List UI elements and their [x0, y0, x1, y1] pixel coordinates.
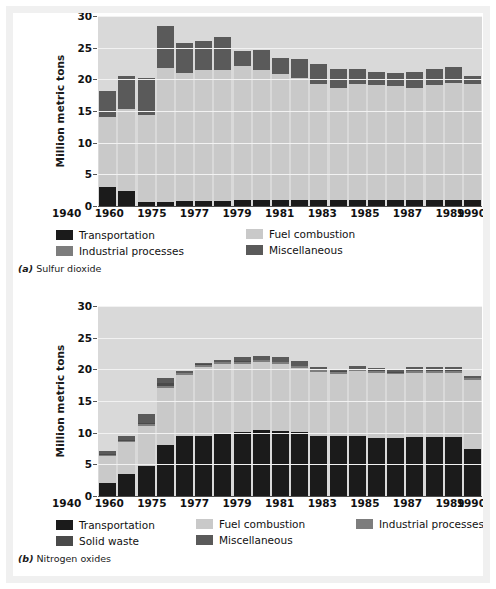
gridline: [98, 79, 482, 80]
legend-row: TransportationFuel combustionIndustrial …: [56, 518, 482, 531]
plot-area-wrapper-b: Million metric tons 051015202530: [56, 306, 482, 496]
bar-segment-fuel-combustion: [99, 117, 116, 187]
x-tick-label: 1985: [350, 497, 379, 509]
bar-segment-fuel-combustion: [406, 373, 423, 437]
bar-segment-miscellaneous: [99, 91, 116, 118]
gridline: [98, 111, 482, 112]
legend-label-transportation: Transportation: [79, 519, 155, 531]
caption-b: (b) Nitrogen oxides: [18, 553, 482, 564]
legend-item-fuel-combustion: Fuel combustion: [196, 518, 305, 530]
y-tick-label: 25: [77, 332, 92, 344]
x-tick-label: 1990: [457, 497, 486, 509]
bar-segment-fuel-combustion: [445, 373, 462, 438]
legend-item-fuel-combustion: Fuel combustion: [246, 228, 355, 240]
bar-segment-transportation: [118, 191, 135, 206]
gridline: [98, 174, 482, 175]
bar-segment-fuel-combustion: [157, 68, 174, 202]
bar-segment-transportation: [99, 483, 116, 496]
bar-segment-transportation: [387, 438, 404, 496]
legend-label-solid-waste: Solid waste: [79, 535, 139, 547]
legend-b: TransportationFuel combustionIndustrial …: [56, 518, 482, 547]
bar-segment-fuel-combustion: [330, 374, 347, 436]
bar-segment-fuel-combustion: [349, 371, 366, 436]
legend-row: Solid wasteMiscellaneous: [56, 534, 482, 547]
bar-segment-fuel-combustion: [214, 70, 231, 201]
bar-segment-transportation: [464, 449, 481, 497]
gridline: [98, 369, 482, 370]
bar-segment-miscellaneous: [349, 69, 366, 85]
y-axis-ticks-b: 051015202530: [70, 306, 96, 496]
y-tick-label: 10: [77, 137, 92, 149]
x-tick-label: 1960: [95, 207, 124, 219]
bar-segment-transportation: [310, 436, 327, 496]
y-tick-label: 15: [77, 395, 92, 407]
y-tick-label: 15: [77, 105, 92, 117]
y-axis-ticks-a: 051015202530: [70, 16, 96, 206]
gridline: [98, 143, 482, 144]
chart-nitrogen-oxides: Million metric tons 051015202530 1940196…: [14, 306, 482, 564]
legend-label-fuel-combustion: Fuel combustion: [269, 228, 355, 240]
plot-area-a: [98, 16, 482, 207]
legend-label-fuel-combustion: Fuel combustion: [219, 518, 305, 530]
y-axis-title-a: Million metric tons: [52, 16, 68, 206]
bar-segment-fuel-combustion: [214, 364, 231, 433]
bar-segment-fuel-combustion: [445, 83, 462, 201]
bar-segment-fuel-combustion: [330, 88, 347, 200]
legend-swatch-miscellaneous: [246, 245, 263, 255]
bar-segment-fuel-combustion: [272, 74, 289, 200]
bar-segment-fuel-combustion: [291, 78, 308, 200]
legend-swatch-industrial-processes: [356, 519, 373, 529]
y-tick-label: 25: [77, 42, 92, 54]
y-axis-title-label-a: Million metric tons: [54, 55, 66, 168]
x-tick-label: 1981: [265, 207, 294, 219]
bar-segment-transportation: [406, 437, 423, 496]
chart-panel-nitrogen-oxides: Million metric tons 051015202530 1940196…: [14, 306, 482, 581]
bar-segment-transportation: [118, 474, 135, 496]
legend-item-transportation: Transportation: [56, 228, 155, 241]
bar-segment-fuel-combustion: [310, 372, 327, 436]
y-axis-title-b: Million metric tons: [52, 306, 68, 496]
bar-segment-fuel-combustion: [253, 70, 270, 200]
legend-row: Industrial processesMiscellaneous: [56, 244, 482, 257]
gridline: [98, 401, 482, 402]
y-tick-label: 5: [85, 168, 92, 180]
x-tick-label: 1960: [95, 497, 124, 509]
x-tick-label: 1990: [457, 207, 486, 219]
x-tick-label: 1979: [222, 497, 251, 509]
chart-panel-sulfur-dioxide: Million metric tons 051015202530 1940196…: [14, 16, 482, 306]
y-axis-title-label-b: Million metric tons: [54, 345, 66, 458]
legend-swatch-fuel-combustion: [246, 229, 263, 239]
bar-segment-fuel-combustion: [406, 88, 423, 201]
plot-area-wrapper-a: Million metric tons 051015202530: [56, 16, 482, 206]
bar-segment-miscellaneous: [138, 414, 155, 423]
gridline: [98, 464, 482, 465]
bar-segment-transportation: [253, 430, 270, 497]
caption-marker-b: (b): [18, 553, 33, 564]
y-tick-label: 20: [77, 73, 92, 85]
x-tick-label: 1987: [393, 207, 422, 219]
bar-segment-transportation: [368, 438, 385, 496]
legend-swatch-transportation: [56, 230, 73, 240]
bar-segment-fuel-combustion: [464, 380, 481, 448]
legend-label-industrial-processes: Industrial processes: [379, 518, 484, 530]
bar-segment-transportation: [157, 445, 174, 496]
legend-a: TransportationFuel combustionIndustrial …: [56, 228, 482, 257]
x-tick-label: 1983: [308, 207, 337, 219]
legend-item-miscellaneous: Miscellaneous: [196, 534, 293, 546]
caption-marker-a: (a): [18, 263, 33, 274]
legend-label-miscellaneous: Miscellaneous: [269, 244, 343, 256]
legend-label-industrial-processes: Industrial processes: [79, 245, 184, 257]
legend-swatch-solid-waste: [56, 536, 73, 546]
legend-swatch-industrial-processes: [56, 246, 73, 256]
bar-segment-miscellaneous: [234, 51, 251, 66]
bar-segment-fuel-combustion: [234, 66, 251, 200]
legend-item-miscellaneous: Miscellaneous: [246, 244, 343, 256]
bar-segment-fuel-combustion: [272, 364, 289, 431]
bar-segment-fuel-combustion: [195, 70, 212, 201]
plot-area-b: [98, 306, 482, 497]
bar-segment-fuel-combustion: [176, 73, 193, 201]
x-tick-label: 1940: [52, 497, 81, 509]
bar-segment-transportation: [99, 187, 116, 206]
x-tick-label: 1983: [308, 497, 337, 509]
bar-segment-transportation: [349, 436, 366, 496]
